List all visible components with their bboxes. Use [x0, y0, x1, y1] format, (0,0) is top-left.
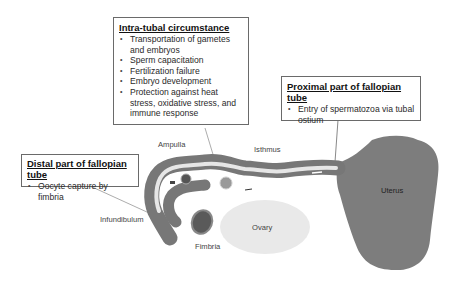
list-item: Protection against heat stress, oxidativ… — [119, 87, 243, 119]
proximal-box: Proximal part of fallopian tube Entry of… — [281, 76, 421, 121]
label-ampulla: Ampulla — [158, 140, 185, 149]
distal-title: Distal part of fallopian tube — [27, 158, 133, 180]
sperm-icon — [245, 189, 252, 190]
leader-line-proximal — [335, 120, 338, 162]
sperm-icon — [170, 181, 175, 184]
embryo-icon — [220, 177, 232, 189]
proximal-title: Proximal part of fallopian tube — [287, 81, 415, 103]
list-item: Embryo development — [119, 76, 243, 87]
label-ovary: Ovary — [252, 223, 272, 232]
label-isthmus: Isthmus — [254, 145, 281, 154]
uterus-shape — [337, 136, 439, 270]
intra-tubal-title: Intra-tubal circumstance — [119, 22, 243, 33]
intra-tubal-box: Intra-tubal circumstance Transportation … — [113, 17, 249, 125]
label-infundibulum: Infundibulum — [100, 215, 143, 224]
label-fimbria: Fimbria — [195, 242, 220, 251]
sperm-icon — [312, 172, 322, 173]
fimbria-shape — [188, 207, 215, 236]
label-uterus: Uterus — [381, 186, 403, 195]
proximal-list: Entry of spermatozoa via tubal ostium — [287, 104, 415, 125]
list-item: Entry of spermatozoa via tubal ostium — [287, 104, 415, 125]
intra-tubal-list: Transportation of gametes and embryos Sp… — [119, 34, 243, 119]
distal-box: Distal part of fallopian tube Oocyte cap… — [21, 154, 139, 187]
oocyte-icon — [181, 174, 191, 184]
distal-list: Oocyte capture by fimbria — [27, 181, 133, 202]
list-item: Oocyte capture by fimbria — [27, 181, 133, 202]
list-item: Fertilization failure — [119, 66, 243, 77]
list-item: Sperm capacitation — [119, 55, 243, 66]
list-item: Transportation of gametes and embryos — [119, 34, 243, 55]
